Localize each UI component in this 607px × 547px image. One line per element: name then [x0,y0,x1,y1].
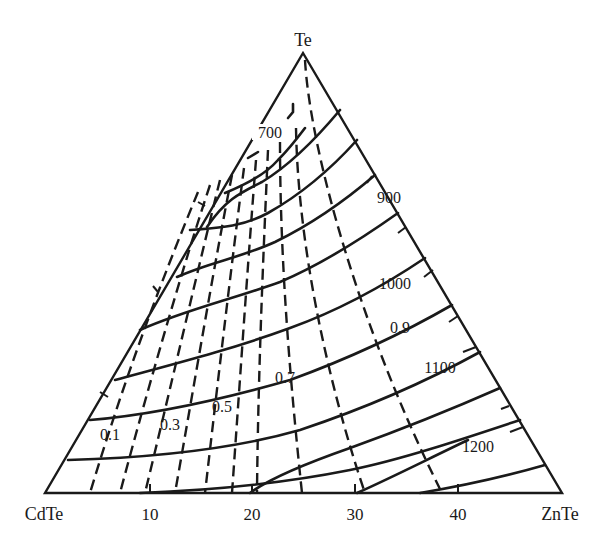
composition-label-0-7: 0.7 [275,369,295,386]
vertex-label-te: Te [294,30,312,50]
isotherm-700-fragment [288,104,293,118]
dash-line-2 [120,185,210,493]
edge-tick-marks [100,176,523,432]
isotherm-label-700: 700 [258,124,282,141]
isotherm-label-900: 900 [377,189,401,206]
isotherm-700-upper [248,152,258,158]
ternary-diagram: Te CdTe ZnTe 10 20 30 40 700 900 1000 11… [0,0,607,547]
dash-line-7 [257,150,268,493]
isotherm-1180 [357,440,468,493]
isotherm-lines [68,104,545,493]
vertex-label-cdte: CdTe [25,504,64,524]
isotherm-900 [140,213,398,330]
composition-label-0-3: 0.3 [160,416,180,433]
composition-label-0-9: 0.9 [390,319,410,336]
isotherm-label-1000: 1000 [379,275,411,292]
tick-label-10: 10 [142,505,159,524]
tick-label-20: 20 [244,505,261,524]
composition-label-0-1: 0.1 [100,426,120,443]
composition-label-0-5: 0.5 [212,398,232,415]
tick-label-40: 40 [450,505,467,524]
triangle-frame [45,53,562,493]
tick-label-30: 30 [347,505,364,524]
base-ticks [150,484,458,493]
isotherm-label-1200: 1200 [462,438,494,455]
isotherm-label-1100: 1100 [424,359,455,376]
vertex-label-znte: ZnTe [541,504,579,524]
